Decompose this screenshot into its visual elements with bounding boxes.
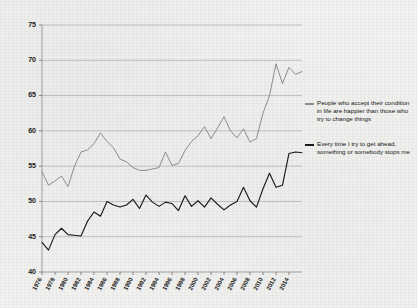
y-tick-label: 55 (28, 162, 36, 169)
legend-color-swatch (305, 103, 314, 105)
chart-legend: People who accept their condition in lif… (305, 99, 415, 172)
legend-item-label: Every time I try to get ahead, something… (317, 140, 415, 156)
x-tick-label: 2002 (200, 276, 212, 291)
x-axis-ticks: 1976197819801982198419861988199019921994… (31, 272, 290, 291)
gridlines-group (42, 25, 302, 237)
y-tick-label: 75 (28, 21, 36, 28)
legend-color-swatch (305, 144, 314, 146)
legend-item[interactable]: Every time I try to get ahead, something… (305, 140, 415, 156)
y-tick-label: 45 (28, 233, 36, 240)
x-tick-label: 2010 (252, 276, 264, 291)
x-tick-label: 2006 (226, 276, 238, 291)
x-tick-label: 1988 (109, 276, 121, 291)
x-tick-label: 1984 (83, 276, 95, 291)
y-tick-label: 50 (28, 197, 36, 204)
y-tick-label: 40 (28, 268, 36, 275)
x-tick-label: 2012 (265, 276, 277, 291)
x-tick-label: 1994 (148, 276, 160, 291)
x-tick-label: 1976 (31, 276, 43, 291)
x-tick-label: 1990 (122, 276, 134, 291)
x-tick-label: 2008 (239, 276, 251, 291)
y-tick-label: 65 (28, 91, 36, 98)
y-tick-label: 60 (28, 127, 36, 134)
series-line-2 (42, 152, 302, 250)
data-series-group (42, 64, 302, 250)
x-tick-label: 1980 (57, 276, 69, 291)
x-tick-label: 1982 (70, 276, 82, 291)
x-tick-label: 2004 (213, 276, 225, 291)
y-tick-label: 70 (28, 56, 36, 63)
x-tick-label: 1986 (96, 276, 108, 291)
x-tick-label: 1992 (135, 276, 147, 291)
x-tick-label: 2000 (187, 276, 199, 291)
x-tick-label: 1978 (44, 276, 56, 291)
series-line-1 (42, 64, 302, 187)
x-tick-label: 2014 (278, 276, 290, 291)
y-axis-ticks: 4045505560657075 (28, 21, 42, 275)
legend-item-label: People who accept their condition in lif… (317, 99, 415, 124)
legend-item[interactable]: People who accept their condition in lif… (305, 99, 415, 124)
x-tick-label: 1998 (174, 276, 186, 291)
x-tick-label: 1996 (161, 276, 173, 291)
